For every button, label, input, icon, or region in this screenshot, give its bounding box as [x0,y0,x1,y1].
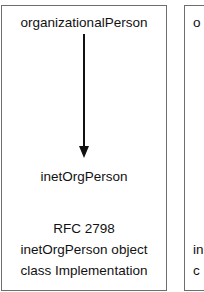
subclass-label: inetOrgPerson [2,168,166,186]
right-top-label-fragment: o [193,14,204,32]
caption-line-3: class Implementation [2,260,166,281]
right-diagram-box: o in c [184,5,204,291]
right-caption-line-1: in [193,239,204,260]
right-caption-fragment: in c [193,239,204,281]
right-caption-line-2: c [193,260,204,281]
caption-line-2: inetOrgPerson object [2,239,166,260]
inheritance-arrow-line [83,34,85,148]
implementation-caption: RFC 2798 inetOrgPerson object class Impl… [2,218,166,281]
caption-line-1: RFC 2798 [2,218,166,239]
superclass-label: organizationalPerson [2,14,166,32]
left-diagram-box: organizationalPerson inetOrgPerson RFC 2… [1,5,167,291]
arrow-down-icon [79,146,89,158]
